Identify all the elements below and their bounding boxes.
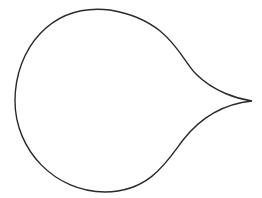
teardrop-figure — [0, 0, 262, 198]
teardrop-outline — [15, 9, 252, 192]
teardrop-shape — [0, 0, 262, 198]
